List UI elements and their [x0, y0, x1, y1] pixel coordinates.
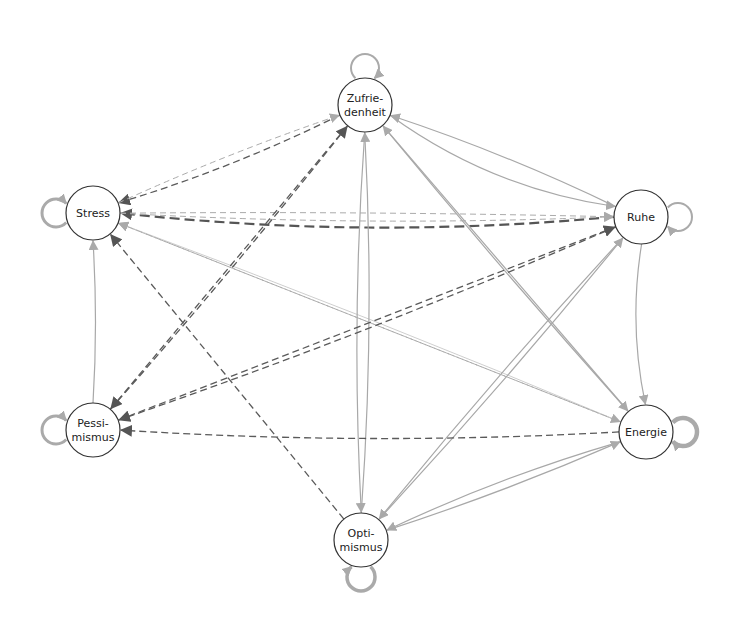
edge-optimismus-to-ruhe	[379, 238, 623, 519]
edge-zufriedenheit-to-ruhe	[390, 115, 615, 206]
node-stress[interactable]: Stress	[66, 186, 120, 240]
self-loop-stress	[42, 199, 66, 227]
node-ruhe[interactable]: Ruhe	[614, 190, 668, 244]
edges	[93, 115, 645, 530]
node-zufriedenheit[interactable]: Zufrie-denheit	[338, 78, 392, 132]
self-loop-ruhe	[668, 203, 692, 231]
node-label: mismus	[72, 431, 115, 444]
self-loop-zufriedenheit	[351, 54, 379, 78]
edge-stress-to-ruhe	[120, 213, 613, 217]
edge-stress-to-zufriedenheit	[118, 115, 339, 203]
node-circle	[334, 513, 388, 567]
node-label: mismus	[340, 541, 383, 554]
network-diagram: Zufrie-denheitStressRuhePessi-mismusEner…	[0, 0, 733, 628]
edge-energie-to-pessimismus	[121, 430, 619, 438]
edge-zufriedenheit-to-energie	[383, 125, 628, 410]
node-circle	[338, 78, 392, 132]
edge-energie-to-optimismus	[387, 442, 621, 531]
node-label: denheit	[344, 106, 387, 119]
node-optimismus[interactable]: Opti-mismus	[334, 513, 388, 567]
edge-ruhe-to-optimismus	[379, 237, 623, 518]
edge-pessimismus-to-stress	[93, 241, 96, 403]
self-loop-energie	[673, 418, 697, 446]
node-label: Ruhe	[627, 211, 655, 224]
node-label: Stress	[76, 207, 110, 220]
edge-zufriedenheit-to-optimismus	[357, 132, 365, 512]
node-label: Pessi-	[77, 417, 109, 430]
self-loop-optimismus	[347, 567, 375, 591]
edge-pessimismus-to-ruhe	[118, 227, 615, 420]
node-pessimismus[interactable]: Pessi-mismus	[66, 403, 120, 457]
node-label: Opti-	[348, 527, 375, 540]
edge-ruhe-to-zufriedenheit	[391, 116, 616, 207]
edge-ruhe-to-energie	[636, 244, 645, 404]
node-label: Energie	[625, 426, 667, 439]
node-circle	[66, 403, 120, 457]
edge-optimismus-to-energie	[386, 442, 620, 531]
self-loop-pessimismus	[42, 416, 66, 444]
node-label: Zufrie-	[347, 92, 384, 105]
edge-optimismus-to-stress	[111, 235, 344, 519]
edge-zufriedenheit-to-stress	[119, 115, 340, 203]
node-energie[interactable]: Energie	[619, 405, 673, 459]
